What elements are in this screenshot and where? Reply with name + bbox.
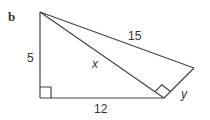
label-left-side: 5 (27, 52, 34, 64)
side-15 (40, 12, 194, 68)
right-angle-marker-bottom-left (40, 87, 51, 98)
label-side-y: y (181, 88, 187, 100)
diagonal-x (40, 12, 164, 98)
part-label: b (8, 10, 15, 23)
label-diagonal-x: x (92, 58, 98, 70)
label-hypotenuse: 15 (128, 30, 141, 42)
geometry-figure: b 5 12 15 x y (0, 0, 210, 120)
label-bottom-side: 12 (94, 103, 107, 115)
right-angle-marker-bottom-right (155, 85, 171, 92)
side-y (164, 68, 194, 98)
